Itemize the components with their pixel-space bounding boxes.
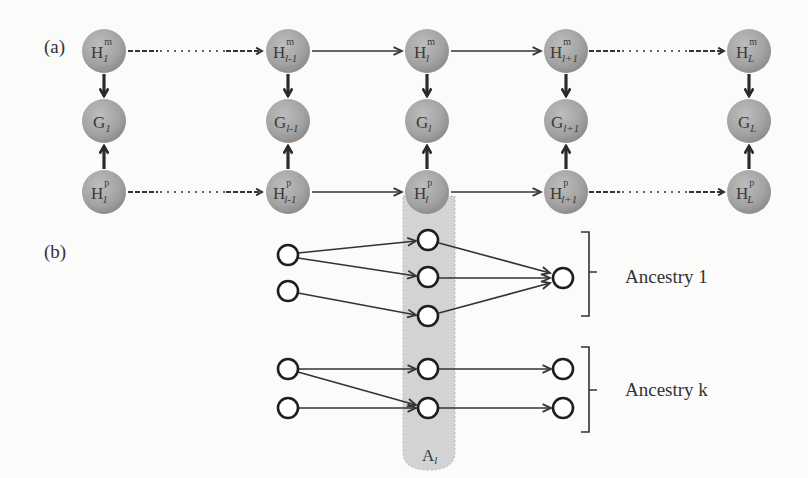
b-left-node-3 xyxy=(278,359,298,379)
bracket-ancestry-1 xyxy=(581,232,597,316)
b-mid-node-2 xyxy=(418,267,438,287)
node-hm-l: Hml xyxy=(405,29,449,73)
node-g-L: GL xyxy=(727,99,771,143)
node-g-l-minus-1: Gl-1 xyxy=(266,99,310,143)
b-mid-node-1 xyxy=(418,230,438,250)
b-right-node-1 xyxy=(553,268,573,288)
node-g-1: G1 xyxy=(82,99,126,143)
ancestry-k-label: Ancestry k xyxy=(625,379,708,400)
node-hp-l-minus-1: Hpl-1 xyxy=(266,170,310,214)
b-left-node-1 xyxy=(278,245,298,265)
node-hp-1: Hp1 xyxy=(82,170,126,214)
b-mid-node-4 xyxy=(418,359,438,379)
node-g-l-plus-1: Gl+1 xyxy=(544,99,588,143)
node-hp-l: Hpl xyxy=(405,170,449,214)
b-right-node-3 xyxy=(553,398,573,418)
b-left-node-2 xyxy=(278,281,298,301)
b-mid-node-3 xyxy=(418,306,438,326)
bracket-ancestry-k xyxy=(581,347,597,432)
b-left-node-4 xyxy=(278,398,298,418)
ancestry-hmm-diagram: (a) (b) Al xyxy=(0,0,808,478)
panel-a-label: (a) xyxy=(44,36,65,58)
b-right-node-2 xyxy=(553,359,573,379)
b-mid-node-5 xyxy=(418,398,438,418)
node-hm-L: HmL xyxy=(727,29,771,73)
node-hp-L: HpL xyxy=(727,170,771,214)
node-hm-l-plus-1: Hml+1 xyxy=(544,29,588,73)
panel-b-label: (b) xyxy=(44,241,66,263)
node-hm-1: Hm1 xyxy=(82,29,126,73)
ancestry-1-label: Ancestry 1 xyxy=(625,266,708,287)
panel-a-nodes: Hm1 G1 Hp1 Hml-1 Gl-1 Hpl-1 Hml xyxy=(82,29,771,214)
ancestry-brackets xyxy=(581,232,597,432)
node-hm-l-minus-1: Hml-1 xyxy=(266,29,310,73)
node-g-l: Gl xyxy=(405,99,449,143)
node-hp-l-plus-1: Hpl+1 xyxy=(544,170,588,214)
